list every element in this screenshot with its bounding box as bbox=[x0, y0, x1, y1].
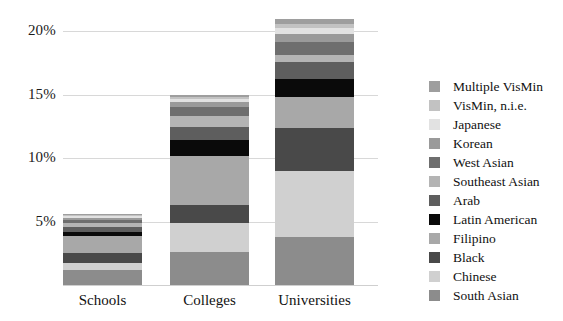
legend-label: Black bbox=[453, 251, 485, 265]
bar-segment[interactable] bbox=[170, 223, 249, 252]
legend-swatch-icon bbox=[429, 119, 440, 130]
legend-item[interactable]: VisMin, n.i.e. bbox=[429, 96, 563, 115]
legend-swatch-icon bbox=[429, 100, 440, 111]
x-axis-baseline bbox=[63, 285, 378, 286]
bar-segment[interactable] bbox=[275, 34, 354, 42]
bar-segment[interactable] bbox=[170, 252, 249, 285]
bar-segment[interactable] bbox=[63, 263, 142, 270]
bar-segment[interactable] bbox=[170, 127, 249, 140]
y-tick-label: 15% bbox=[8, 87, 56, 102]
legend-swatch-icon bbox=[429, 233, 440, 244]
bar-segment[interactable] bbox=[275, 97, 354, 128]
legend-label: VisMin, n.i.e. bbox=[453, 99, 527, 113]
bar-segment[interactable] bbox=[170, 107, 249, 116]
legend-label: Southeast Asian bbox=[453, 175, 540, 189]
stacked-bar-chart: 5%10%15%20% SchoolsCollegesUniversities … bbox=[0, 0, 563, 321]
legend-item[interactable]: Southeast Asian bbox=[429, 172, 563, 191]
bar-segment[interactable] bbox=[63, 236, 142, 253]
bar-segment[interactable] bbox=[170, 116, 249, 127]
legend-swatch-icon bbox=[429, 252, 440, 263]
y-tick-label: 10% bbox=[8, 150, 56, 165]
bar-segment[interactable] bbox=[170, 205, 249, 223]
bar-segment[interactable] bbox=[63, 253, 142, 264]
legend-label: South Asian bbox=[453, 289, 519, 303]
bar-segment[interactable] bbox=[170, 156, 249, 205]
legend-swatch-icon bbox=[429, 157, 440, 168]
y-tick-label: 5% bbox=[8, 214, 56, 229]
legend-item[interactable]: Filipino bbox=[429, 229, 563, 248]
bar-segment[interactable] bbox=[275, 237, 354, 285]
legend-item[interactable]: Japanese bbox=[429, 115, 563, 134]
bar-segment[interactable] bbox=[275, 171, 354, 237]
legend-item[interactable]: Multiple VisMin bbox=[429, 77, 563, 96]
legend-swatch-icon bbox=[429, 214, 440, 225]
legend-swatch-icon bbox=[429, 176, 440, 187]
y-axis-tick-labels: 5%10%15%20% bbox=[0, 12, 56, 285]
legend-item[interactable]: Chinese bbox=[429, 267, 563, 286]
bar-universities[interactable] bbox=[275, 19, 354, 285]
legend-swatch-icon bbox=[429, 271, 440, 282]
legend-label: Korean bbox=[453, 137, 493, 151]
legend-item[interactable]: Korean bbox=[429, 134, 563, 153]
bar-segment[interactable] bbox=[275, 42, 354, 55]
legend-label: Japanese bbox=[453, 118, 501, 132]
legend-item[interactable]: South Asian bbox=[429, 286, 563, 305]
bar-segment[interactable] bbox=[275, 79, 354, 97]
legend-label: Chinese bbox=[453, 270, 497, 284]
legend-item[interactable]: Black bbox=[429, 248, 563, 267]
legend-item[interactable]: Arab bbox=[429, 191, 563, 210]
legend-label: Multiple VisMin bbox=[453, 80, 543, 94]
legend-label: Latin American bbox=[453, 213, 537, 227]
plot-area bbox=[63, 12, 378, 285]
bar-segment[interactable] bbox=[275, 55, 354, 62]
legend-swatch-icon bbox=[429, 290, 440, 301]
chart-legend: Multiple VisMinVisMin, n.i.e.JapaneseKor… bbox=[429, 77, 563, 305]
y-tick-label: 20% bbox=[8, 23, 56, 38]
legend-item[interactable]: West Asian bbox=[429, 153, 563, 172]
bar-colleges[interactable] bbox=[170, 95, 249, 285]
bar-schools[interactable] bbox=[63, 214, 142, 285]
x-tick-label-universities: Universities bbox=[250, 291, 380, 309]
legend-item[interactable]: Latin American bbox=[429, 210, 563, 229]
bar-segment[interactable] bbox=[170, 140, 249, 156]
bar-segment[interactable] bbox=[275, 62, 354, 79]
legend-swatch-icon bbox=[429, 195, 440, 206]
legend-label: Arab bbox=[453, 194, 480, 208]
legend-label: West Asian bbox=[453, 156, 514, 170]
legend-swatch-icon bbox=[429, 138, 440, 149]
legend-swatch-icon bbox=[429, 81, 440, 92]
bar-segment[interactable] bbox=[63, 270, 142, 285]
bar-segment[interactable] bbox=[275, 128, 354, 171]
legend-label: Filipino bbox=[453, 232, 496, 246]
